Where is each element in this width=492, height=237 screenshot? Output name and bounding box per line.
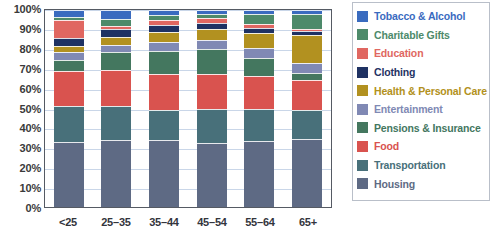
legend-item[interactable]: Education <box>357 44 487 63</box>
legend-swatch-icon <box>357 11 368 22</box>
legend-item[interactable]: Tobacco & Alcohol <box>357 7 487 26</box>
bar-segment[interactable] <box>54 52 84 60</box>
bar-segment[interactable] <box>149 110 179 141</box>
legend-item[interactable]: Entertainment <box>357 100 487 119</box>
bar-segment[interactable] <box>197 74 227 108</box>
bar-segment[interactable] <box>292 80 322 111</box>
legend-swatch-icon <box>357 48 368 59</box>
legend-item[interactable]: Transportation <box>357 156 487 175</box>
bar-segment[interactable] <box>149 51 179 74</box>
bar-segment[interactable] <box>149 32 179 42</box>
bar-segment[interactable] <box>197 40 227 50</box>
x-axis-tick-label: <25 <box>44 216 92 228</box>
bar-segment[interactable] <box>149 42 179 52</box>
bar-group <box>45 10 331 207</box>
legend-item-label: Tobacco & Alcohol <box>374 10 465 22</box>
bar-segment[interactable] <box>101 37 131 45</box>
bar-segment[interactable] <box>101 70 131 105</box>
bar-segment[interactable] <box>292 35 322 64</box>
bar-column[interactable] <box>140 10 187 207</box>
bar-segment[interactable] <box>292 73 322 80</box>
stacked-bar[interactable] <box>197 10 227 207</box>
stacked-bar[interactable] <box>244 10 274 207</box>
y-axis-tick-label: 20% <box>20 162 41 174</box>
bar-segment[interactable] <box>197 109 227 143</box>
x-axis-tick-label: 35–44 <box>140 216 188 228</box>
x-axis-tick-label: 65+ <box>284 216 332 228</box>
y-axis-tick-label: 70% <box>20 63 41 75</box>
bar-segment[interactable] <box>149 74 179 109</box>
legend-item-label: Food <box>374 140 399 152</box>
stacked-bar[interactable] <box>101 10 131 207</box>
bar-segment[interactable] <box>101 106 131 140</box>
bar-column[interactable] <box>93 10 140 207</box>
bar-segment[interactable] <box>244 14 274 24</box>
bar-segment[interactable] <box>101 140 131 207</box>
legend-item-label: Clothing <box>374 66 415 78</box>
bar-segment[interactable] <box>54 71 84 105</box>
bar-segment[interactable] <box>101 29 131 37</box>
bar-column[interactable] <box>236 10 283 207</box>
bar-segment[interactable] <box>54 46 84 53</box>
bar-column[interactable] <box>45 10 92 207</box>
legend-swatch-icon <box>357 85 368 96</box>
bar-segment[interactable] <box>244 48 274 58</box>
bar-segment[interactable] <box>292 139 322 207</box>
bar-segment[interactable] <box>54 60 84 71</box>
legend-item[interactable]: Clothing <box>357 63 487 82</box>
bar-segment[interactable] <box>54 10 84 17</box>
x-axis-tick-label: 45–54 <box>188 216 236 228</box>
bar-segment[interactable] <box>54 20 84 38</box>
x-axis: <2525–3535–4445–5455–6465+ <box>44 209 332 235</box>
bar-segment[interactable] <box>54 38 84 46</box>
bar-segment[interactable] <box>244 76 274 109</box>
legend-item[interactable]: Housing <box>357 174 487 193</box>
bar-segment[interactable] <box>101 45 131 53</box>
y-axis: 100%90%80%70%60%50%40%30%20%10%0% <box>0 0 44 212</box>
stacked-bar[interactable] <box>292 10 322 207</box>
bar-segment[interactable] <box>292 110 322 139</box>
bar-segment[interactable] <box>244 33 274 49</box>
legend-swatch-icon <box>357 160 368 171</box>
legend-item-label: Charitable Gifts <box>374 29 450 41</box>
bar-segment[interactable] <box>149 25 179 32</box>
y-axis-tick-label: 0% <box>26 202 42 214</box>
bar-segment[interactable] <box>292 14 322 29</box>
bar-segment[interactable] <box>197 49 227 74</box>
bar-segment[interactable] <box>149 140 179 207</box>
bar-column[interactable] <box>283 10 330 207</box>
legend-item[interactable]: Health & Personal Care <box>357 81 487 100</box>
bar-segment[interactable] <box>244 141 274 207</box>
stacked-bar[interactable] <box>149 10 179 207</box>
legend-item[interactable]: Food <box>357 137 487 156</box>
bar-segment[interactable] <box>101 52 131 70</box>
y-axis-tick-label: 40% <box>20 122 41 134</box>
y-axis-tick-label: 100% <box>14 3 41 15</box>
stacked-bar[interactable] <box>54 10 84 207</box>
y-axis-tick-label: 50% <box>20 103 41 115</box>
y-axis-tick-label: 60% <box>20 83 41 95</box>
legend-item-label: Pensions & Insurance <box>374 122 481 134</box>
legend-swatch-icon <box>357 122 368 133</box>
legend-item[interactable]: Pensions & Insurance <box>357 119 487 138</box>
legend-swatch-icon <box>357 104 368 115</box>
bar-segment[interactable] <box>244 109 274 142</box>
legend-item-label: Transportation <box>374 159 445 171</box>
x-axis-tick-label: 55–64 <box>236 216 284 228</box>
y-axis-tick-label: 80% <box>20 43 41 55</box>
bar-column[interactable] <box>188 10 235 207</box>
legend-swatch-icon <box>357 141 368 152</box>
bar-segment[interactable] <box>54 142 84 207</box>
legend-item-label: Health & Personal Care <box>374 85 487 97</box>
chart-legend: Tobacco & AlcoholCharitable GiftsEducati… <box>352 2 490 201</box>
bar-segment[interactable] <box>101 19 131 26</box>
plot-area <box>44 9 332 208</box>
bar-segment[interactable] <box>197 143 227 207</box>
bar-segment[interactable] <box>101 10 131 19</box>
bar-segment[interactable] <box>292 63 322 73</box>
bar-segment[interactable] <box>54 106 84 142</box>
bar-segment[interactable] <box>244 58 274 76</box>
legend-item[interactable]: Charitable Gifts <box>357 26 487 45</box>
bar-segment[interactable] <box>197 29 227 40</box>
legend-item-label: Housing <box>374 178 415 190</box>
